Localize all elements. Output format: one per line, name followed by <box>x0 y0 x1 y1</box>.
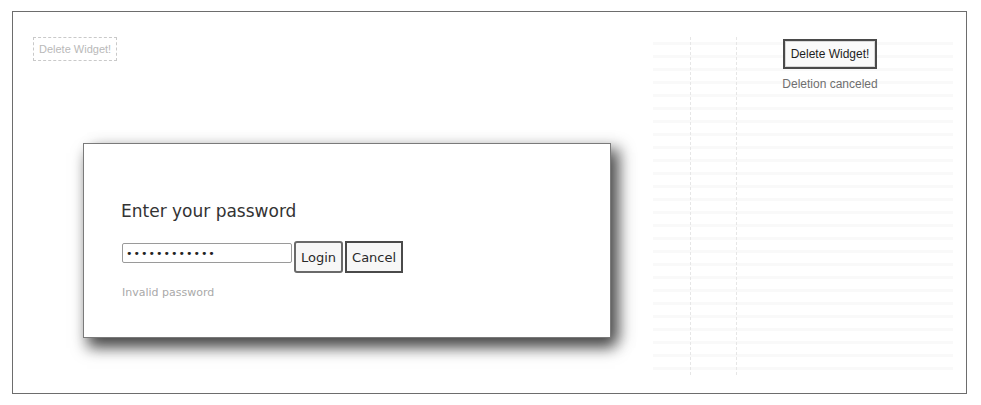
background-delete-widget-button: Delete Widget! <box>33 37 117 61</box>
error-message: Invalid password <box>122 286 214 299</box>
password-input[interactable] <box>122 243 292 263</box>
deletion-status: Deletion canceled <box>782 77 877 91</box>
login-button[interactable]: Login <box>294 241 343 273</box>
delete-widget-button[interactable]: Delete Widget! <box>783 39 878 69</box>
right-panel: Delete Widget! Deletion canceled <box>760 39 900 91</box>
modal-title: Enter your password <box>121 201 296 221</box>
cancel-button[interactable]: Cancel <box>345 241 403 273</box>
column-divider <box>690 37 691 375</box>
login-form: Login Cancel <box>122 241 403 273</box>
password-modal: Enter your password Login Cancel Invalid… <box>83 143 611 338</box>
column-divider <box>736 37 737 375</box>
